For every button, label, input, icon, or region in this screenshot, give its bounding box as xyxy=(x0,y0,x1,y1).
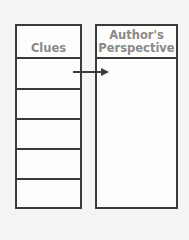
clues-header-label: Clues xyxy=(31,42,66,55)
authors-perspective-column: Author's Perspective xyxy=(95,24,178,209)
clue-row-1 xyxy=(17,59,80,90)
clue-row-4 xyxy=(17,150,80,180)
clue-row-3 xyxy=(17,120,80,150)
clues-header: Clues xyxy=(17,26,80,59)
header-line-2: Perspective xyxy=(98,42,174,55)
authors-perspective-header: Author's Perspective xyxy=(97,26,176,59)
clue-row-2 xyxy=(17,90,80,120)
arrow-right-icon xyxy=(72,67,112,77)
clues-column: Clues xyxy=(15,24,82,209)
